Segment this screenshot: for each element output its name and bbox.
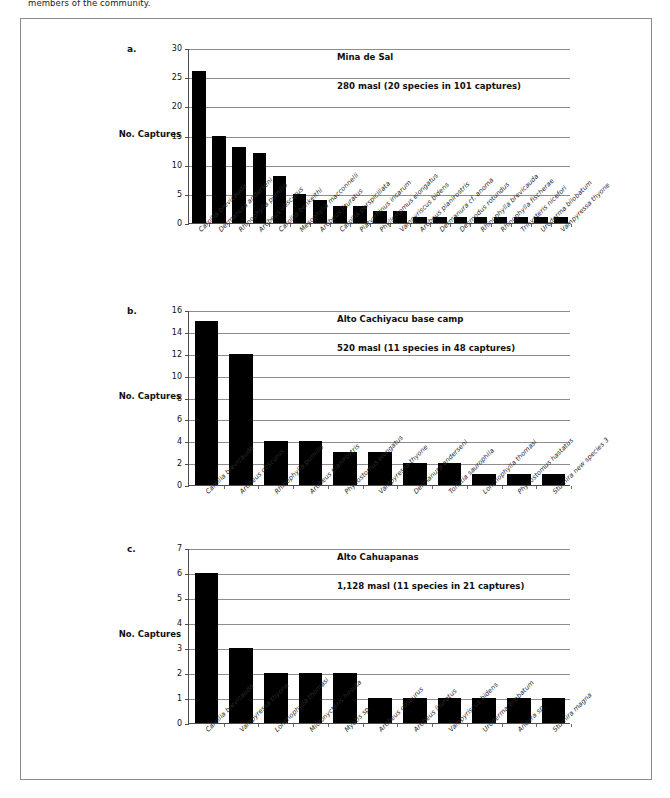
gridline [189, 107, 570, 108]
figure-page: members of the community. a. No. Capture… [0, 0, 670, 798]
gridline [189, 195, 570, 196]
x-tick-mark [290, 224, 291, 227]
y-tick-label: 6 [162, 416, 182, 424]
y-tick-mark [185, 137, 189, 138]
panel-b-letter: b. [127, 306, 137, 316]
bar [253, 153, 267, 223]
gridline [189, 624, 570, 625]
y-tick-label: 8 [162, 395, 182, 403]
bar [403, 698, 427, 723]
x-tick-mark [293, 486, 294, 489]
x-tick-mark [209, 224, 210, 227]
bar [373, 211, 387, 223]
y-tick-label: 5 [162, 191, 182, 199]
panel-c-plot-area [188, 549, 570, 724]
bar [229, 354, 253, 485]
bar [472, 698, 496, 723]
y-tick-mark [185, 107, 189, 108]
y-tick-mark [185, 333, 189, 334]
x-tick-mark [258, 724, 259, 727]
y-tick-label: 14 [162, 329, 182, 337]
y-tick-mark [185, 599, 189, 600]
bar [264, 673, 288, 723]
x-tick-mark [350, 224, 351, 227]
x-tick-mark [511, 224, 512, 227]
y-tick-label: 4 [162, 620, 182, 628]
x-tick-mark [363, 486, 364, 489]
bar [195, 321, 219, 485]
x-tick-mark [258, 486, 259, 489]
y-tick-mark [185, 195, 189, 196]
bar [454, 217, 468, 223]
y-tick-label: 12 [162, 351, 182, 359]
bar [413, 217, 427, 223]
gridline [189, 49, 570, 50]
x-tick-mark [571, 486, 572, 489]
bar [542, 474, 566, 485]
x-tick-mark [502, 724, 503, 727]
bar [273, 176, 287, 223]
y-tick-label: 0 [162, 482, 182, 490]
panel-a-letter: a. [127, 44, 137, 54]
x-tick-mark [363, 724, 364, 727]
x-tick-mark [531, 224, 532, 227]
x-tick-mark [390, 224, 391, 227]
bar [313, 200, 327, 223]
y-tick-label: 5 [162, 595, 182, 603]
panel-b: b. No. Captures Alto Cachiyacu base camp… [21, 281, 653, 539]
bar [232, 147, 246, 223]
bar [229, 648, 253, 723]
bar [299, 673, 323, 723]
bar [393, 211, 407, 223]
gridline [189, 549, 570, 550]
x-tick-mark [310, 224, 311, 227]
x-tick-mark [328, 724, 329, 727]
y-tick-mark [185, 699, 189, 700]
x-tick-mark [571, 224, 572, 227]
gridline [189, 333, 570, 334]
panel-a: a. No. Captures Mina de Sal 280 masl (20… [21, 19, 653, 287]
bar [333, 673, 357, 723]
caption-above-figure: members of the community. [28, 0, 151, 8]
gridline [189, 311, 570, 312]
y-tick-label: 2 [162, 460, 182, 468]
bar [403, 463, 427, 485]
bar [293, 194, 307, 223]
x-tick-mark [432, 486, 433, 489]
x-tick-mark [470, 224, 471, 227]
x-tick-mark [536, 724, 537, 727]
y-tick-mark [185, 166, 189, 167]
bar [192, 71, 206, 223]
bar [368, 698, 392, 723]
y-tick-label: 0 [162, 720, 182, 728]
panel-c: c. No. Captures Alto Cahuapanas 1,128 ma… [21, 519, 653, 781]
y-tick-mark [185, 674, 189, 675]
bar [433, 217, 447, 223]
x-tick-mark [397, 724, 398, 727]
y-tick-label: 6 [162, 570, 182, 578]
x-tick-mark [467, 486, 468, 489]
y-tick-mark [185, 574, 189, 575]
gridline [189, 166, 570, 167]
x-tick-mark [571, 724, 572, 727]
gridline [189, 599, 570, 600]
bar [333, 452, 357, 485]
y-tick-mark [185, 486, 189, 487]
bar [534, 217, 548, 223]
bar [368, 452, 392, 485]
figure-frame: a. No. Captures Mina de Sal 280 masl (20… [20, 18, 652, 780]
y-tick-mark [185, 399, 189, 400]
bar [514, 217, 528, 223]
y-tick-mark [185, 49, 189, 50]
y-tick-label: 16 [162, 307, 182, 315]
y-tick-mark [185, 442, 189, 443]
gridline [189, 137, 570, 138]
y-tick-label: 15 [162, 133, 182, 141]
y-tick-label: 20 [162, 103, 182, 111]
y-tick-label: 2 [162, 670, 182, 678]
x-tick-mark [430, 224, 431, 227]
bar [507, 474, 531, 485]
y-tick-label: 7 [162, 545, 182, 553]
x-tick-mark [502, 486, 503, 489]
x-tick-mark [330, 224, 331, 227]
